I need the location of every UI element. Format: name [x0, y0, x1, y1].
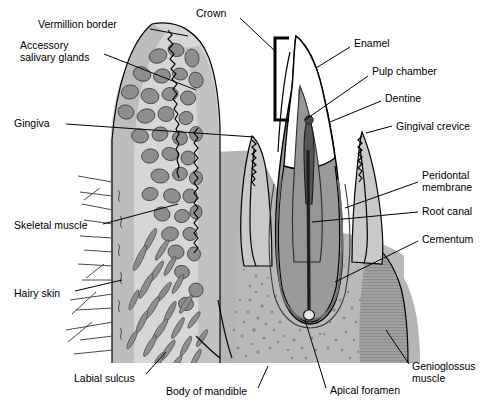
label-apical-foramen: Apical foramen — [330, 384, 400, 396]
label-accessory-salivary-glands-line2: salivary glands — [20, 51, 89, 63]
label-gingival-crevice: Gingival crevice — [396, 120, 470, 132]
label-pulp-chamber: Pulp chamber — [372, 65, 437, 77]
label-labial-sulcus: Labial sulcus — [74, 372, 135, 384]
label-body-of-mandible: Body of mandible — [166, 385, 247, 397]
anatomical-figure: Vermillion border Accessory salivary gla… — [0, 0, 486, 404]
label-cementum: Cementum — [422, 233, 474, 245]
label-peridontal-membrane-line1: Peridontal — [422, 169, 469, 181]
label-genioglossus-muscle-line2: muscle — [412, 372, 445, 384]
label-crown: Crown — [196, 7, 227, 19]
label-dentine: Dentine — [385, 92, 421, 104]
label-gingiva: Gingiva — [14, 117, 50, 129]
label-peridontal-membrane-line2: membrane — [422, 181, 472, 193]
label-root-canal: Root canal — [422, 205, 472, 217]
apical-foramen-dot — [304, 310, 315, 320]
label-hairy-skin: Hairy skin — [14, 287, 60, 299]
label-genioglossus-muscle-line1: Genioglossus — [412, 360, 476, 372]
tooth-diagram-svg: Vermillion border Accessory salivary gla… — [0, 0, 486, 404]
label-skeletal-muscle: Skeletal muscle — [14, 219, 88, 231]
label-enamel: Enamel — [354, 37, 390, 49]
label-accessory-salivary-glands-line1: Accessory — [20, 39, 69, 51]
label-vermillion-border: Vermillion border — [38, 18, 117, 30]
